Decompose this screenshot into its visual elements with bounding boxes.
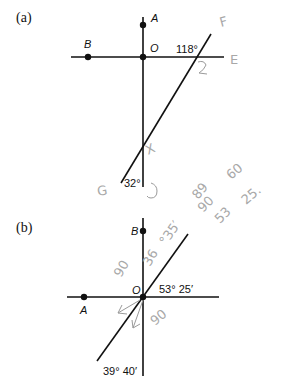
figure-a: (a) A B O 118° 32° F E X G — [16, 10, 238, 199]
handwritten-60: 60 — [223, 160, 245, 182]
handwritten-90-left: 90 — [111, 258, 132, 280]
point-b-dot — [140, 228, 146, 234]
handwritten-e: E — [230, 52, 238, 67]
handwritten-arrow-left-icon — [118, 300, 140, 314]
handwritten-x: X — [143, 140, 157, 157]
figure-b: (b) B A O 53° 25′ 39° 40′ 90 36 °35′ 90 … — [16, 160, 264, 377]
angle-53-25-label: 53° 25′ — [159, 283, 193, 295]
point-a-dot — [140, 22, 146, 28]
point-b-label: B — [84, 38, 91, 50]
angle-118-label: 118° — [176, 43, 198, 55]
handwritten-g: G — [96, 182, 109, 199]
point-a-label: A — [79, 304, 87, 316]
point-o-dot — [140, 54, 146, 60]
handwritten-hook-icon — [147, 183, 157, 198]
point-b-label: B — [131, 225, 138, 237]
angle-32-label: 32° — [124, 177, 141, 189]
geometry-diagram: (a) A B O 118° 32° F E X G (b) — [0, 0, 282, 386]
handwritten-angle-mark-icon — [198, 61, 207, 74]
point-b-dot — [85, 54, 91, 60]
handwritten-f: F — [218, 13, 229, 29]
point-a-label: A — [150, 12, 158, 24]
figure-a-label: (a) — [16, 10, 32, 26]
handwritten-53: 53 — [212, 204, 234, 226]
handwritten-25: 25. — [238, 183, 263, 208]
point-o-label: O — [150, 42, 159, 54]
point-o-dot — [140, 294, 146, 300]
handwritten-35: °35′ — [156, 218, 183, 248]
figure-b-label: (b) — [16, 220, 33, 236]
angle-39-40-label: 39° 40′ — [103, 365, 137, 377]
point-a-dot — [81, 294, 87, 300]
point-o-label: O — [132, 284, 141, 296]
handwritten-90-right: 90 — [147, 306, 169, 328]
